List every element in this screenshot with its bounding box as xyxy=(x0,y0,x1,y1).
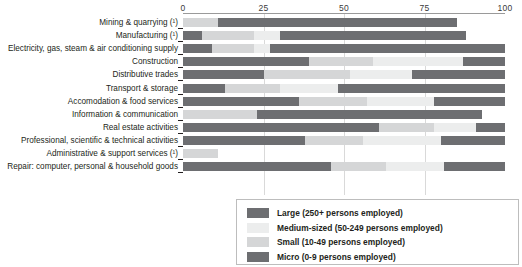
category-tick xyxy=(178,67,183,68)
chart-row: Electricity, gas, steam & air conditioni… xyxy=(0,43,522,56)
chart-row: Distributive trades xyxy=(0,69,522,82)
bar-segment-medium[interactable] xyxy=(434,123,476,132)
x-axis-tick-label: 0 xyxy=(168,3,198,13)
bar-segment-medium[interactable] xyxy=(373,57,463,66)
bar-segment-medium[interactable] xyxy=(367,97,435,106)
chart-row: Accomodation & food services xyxy=(0,96,522,109)
bar-segment-large[interactable] xyxy=(338,84,505,93)
bar-segment-small[interactable] xyxy=(212,44,254,53)
legend-swatch xyxy=(247,223,269,233)
category-tick xyxy=(178,146,183,147)
stacked-bar[interactable] xyxy=(183,162,505,171)
bar-segment-large[interactable] xyxy=(218,18,456,27)
stacked-bar[interactable] xyxy=(183,57,505,66)
category-tick xyxy=(178,120,183,121)
chart-legend: Large (250+ persons employed)Medium-size… xyxy=(236,199,519,265)
bar-segment-small[interactable] xyxy=(331,162,386,171)
chart-row: Mining & quarrying (¹) xyxy=(0,17,522,30)
bar-segment-large[interactable] xyxy=(434,97,505,106)
bar-segment-medium[interactable] xyxy=(254,31,280,40)
bar-segment-small[interactable] xyxy=(225,84,280,93)
chart-row: Manufacturing (¹) xyxy=(0,30,522,43)
bar-segment-large[interactable] xyxy=(444,162,505,171)
legend-label: Micro (0-9 persons employed) xyxy=(277,251,396,263)
chart-row: Professional, scientific & technical act… xyxy=(0,135,522,148)
category-tick xyxy=(178,54,183,55)
bar-segment-micro[interactable] xyxy=(183,44,212,53)
stacked-bar[interactable] xyxy=(183,123,505,132)
stacked-bar[interactable] xyxy=(183,84,505,93)
x-axis-tick-label: 75 xyxy=(410,3,440,13)
bar-segment-medium[interactable] xyxy=(350,70,411,79)
stacked-bar[interactable] xyxy=(183,149,218,158)
bar-segment-large[interactable] xyxy=(441,136,505,145)
bar-segment-micro[interactable] xyxy=(183,136,305,145)
chart-row: Transport & storage xyxy=(0,83,522,96)
category-label: Administrative & support services (¹) xyxy=(0,148,178,159)
bar-segment-micro[interactable] xyxy=(183,70,264,79)
category-label: Manufacturing (¹) xyxy=(0,30,178,41)
bar-segment-medium[interactable] xyxy=(280,84,338,93)
stacked-bar-chart: 0255075100 Mining & quarrying (¹)Manufac… xyxy=(0,0,522,267)
bar-segment-medium[interactable] xyxy=(254,44,270,53)
bar-segment-medium[interactable] xyxy=(386,162,444,171)
category-tick xyxy=(178,172,183,173)
legend-label: Large (250+ persons employed) xyxy=(277,207,403,219)
bar-segment-small[interactable] xyxy=(183,18,218,27)
category-label: Construction xyxy=(0,56,178,67)
category-label: Real estate activities xyxy=(0,122,178,133)
stacked-bar[interactable] xyxy=(183,136,505,145)
bar-segment-large[interactable] xyxy=(463,57,505,66)
legend-swatch xyxy=(247,208,269,218)
bar-segment-micro[interactable] xyxy=(183,57,309,66)
bar-segment-micro[interactable] xyxy=(183,97,299,106)
bar-segment-large[interactable] xyxy=(257,110,482,119)
category-label: Transport & storage xyxy=(0,83,178,94)
category-label: Electricity, gas, steam & air conditioni… xyxy=(0,43,178,54)
legend-label: Medium-sized (50-249 persons employed) xyxy=(277,222,443,234)
bar-segment-large[interactable] xyxy=(476,123,505,132)
stacked-bar[interactable] xyxy=(183,18,457,27)
bar-segment-micro[interactable] xyxy=(183,84,225,93)
stacked-bar[interactable] xyxy=(183,110,482,119)
legend-swatch xyxy=(247,237,269,247)
category-tick xyxy=(178,80,183,81)
category-tick xyxy=(178,133,183,134)
legend-label: Small (10-49 persons employed) xyxy=(277,236,405,248)
bar-segment-large[interactable] xyxy=(412,70,505,79)
bar-segment-large[interactable] xyxy=(280,31,467,40)
bar-segment-small[interactable] xyxy=(379,123,434,132)
chart-row: Information & communication xyxy=(0,109,522,122)
stacked-bar[interactable] xyxy=(183,70,505,79)
category-label: Information & communication xyxy=(0,109,178,120)
bar-segment-micro[interactable] xyxy=(183,31,202,40)
bar-segment-large[interactable] xyxy=(270,44,505,53)
bar-segment-micro[interactable] xyxy=(183,162,331,171)
category-tick xyxy=(178,28,183,29)
bar-segment-micro[interactable] xyxy=(183,123,379,132)
bar-segment-small[interactable] xyxy=(305,136,363,145)
bar-segment-small[interactable] xyxy=(183,110,257,119)
category-label: Mining & quarrying (¹) xyxy=(0,17,178,28)
chart-row: Administrative & support services (¹) xyxy=(0,148,522,161)
bar-segment-small[interactable] xyxy=(183,149,218,158)
category-tick xyxy=(178,107,183,108)
bar-segment-small[interactable] xyxy=(299,97,367,106)
stacked-bar[interactable] xyxy=(183,97,505,106)
legend-swatch xyxy=(247,252,269,262)
stacked-bar[interactable] xyxy=(183,31,466,40)
bar-segment-medium[interactable] xyxy=(363,136,440,145)
bar-segment-small[interactable] xyxy=(202,31,254,40)
bar-segment-small[interactable] xyxy=(264,70,351,79)
bar-segment-small[interactable] xyxy=(309,57,373,66)
category-tick xyxy=(178,41,183,42)
chart-row: Construction xyxy=(0,56,522,69)
stacked-bar[interactable] xyxy=(183,44,505,53)
chart-row: Real estate activities xyxy=(0,122,522,135)
x-axis-tick-label: 100 xyxy=(490,3,520,13)
category-label: Repair: computer, personal & household g… xyxy=(0,161,178,172)
x-axis-tick-label: 25 xyxy=(249,3,279,13)
category-label: Accomodation & food services xyxy=(0,96,178,107)
x-axis-tick-label: 50 xyxy=(329,3,359,13)
category-tick xyxy=(178,159,183,160)
